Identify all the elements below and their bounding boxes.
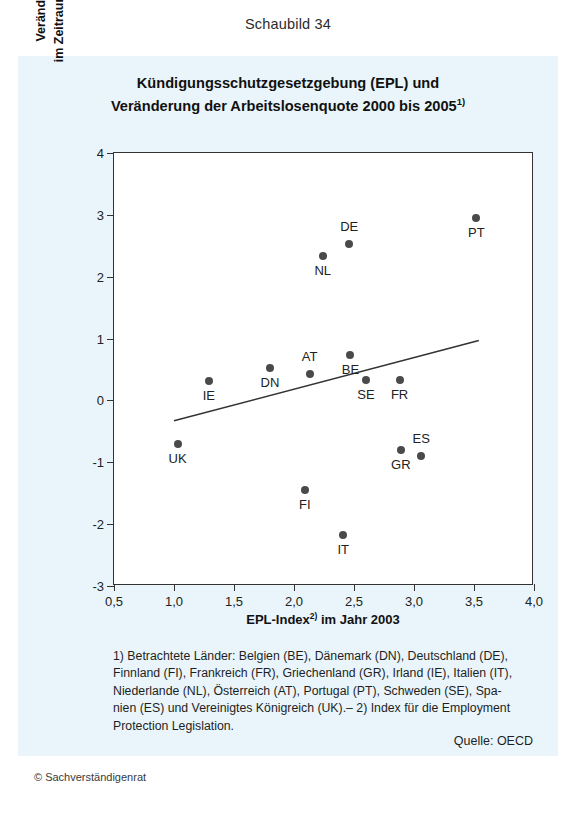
y-tick (107, 462, 114, 463)
data-point-label: IT (337, 542, 349, 557)
y-tick-label: -1 (92, 455, 104, 470)
data-point-label: UK (169, 451, 187, 466)
plot-area: -3-2-101234 0,51,01,52,02,53,03,54,0 UKI… (113, 152, 533, 585)
x-tick-label: 1,5 (225, 594, 243, 609)
y-tick-label: 3 (97, 207, 104, 222)
x-tick (534, 584, 535, 591)
footnote-line-4: nien (ES) und Vereinigtes Königreich (UK… (113, 700, 533, 717)
data-point-label: DE (340, 219, 358, 234)
chart-panel: Kündigungsschutzgesetzgebung (EPL) und V… (18, 56, 558, 756)
x-tick-label: 2,5 (345, 594, 363, 609)
x-tick (294, 584, 295, 591)
footnote-line-1: 1) Betrachtete Länder: Belgien (BE), Dän… (113, 648, 533, 665)
y-tick (107, 586, 114, 587)
x-axis-title: EPL-Index2) im Jahr 2003 (113, 612, 533, 627)
y-tick (107, 524, 114, 525)
x-axis-title-text: EPL-Index (246, 612, 310, 627)
x-tick (114, 584, 115, 591)
chart-title-line-2: Veränderung der Arbeitslosenquote 2000 b… (18, 95, 558, 118)
y-tick (107, 339, 114, 340)
y-tick (107, 400, 114, 401)
x-tick (174, 584, 175, 591)
data-point-label: DN (261, 375, 280, 390)
data-point-label: SE (357, 387, 374, 402)
data-point-label: PT (468, 225, 485, 240)
data-point-label: BE (342, 362, 359, 377)
data-point-label: IE (203, 388, 215, 403)
x-axis-title-suffix: im Jahr 2003 (317, 612, 399, 627)
figure-number: Schaubild 34 (0, 16, 576, 32)
trendline (114, 153, 534, 586)
copyright-note: © Sachverständigenrat (34, 771, 146, 783)
y-tick (107, 153, 114, 154)
x-tick-label: 2,0 (285, 594, 303, 609)
source-note: Quelle: OECD (113, 734, 533, 748)
data-point-label: FI (299, 497, 311, 512)
data-point-label: AT (302, 349, 318, 364)
chart-title-footnote-marker: 1) (457, 96, 465, 107)
data-point (396, 376, 404, 384)
data-point (362, 376, 370, 384)
x-tick (474, 584, 475, 591)
data-point (397, 446, 405, 454)
data-point (319, 252, 327, 260)
chart-title-line-2-text: Veränderung der Arbeitslosenquote 2000 b… (111, 98, 457, 114)
y-axis-title-line-1: Veränderung der Arbeitslosenquote (32, 0, 50, 152)
y-axis-title-line-2: im Zeitraum 2000 bis 2005 (Prozentpunkte… (50, 0, 68, 152)
x-tick (234, 584, 235, 591)
x-tick-label: 3,0 (405, 594, 423, 609)
data-point-label: GR (391, 457, 411, 472)
data-point-label: ES (413, 431, 430, 446)
footnote-line-2: Finnland (FI), Frankreich (FR), Griechen… (113, 665, 533, 682)
footnote-line-3: Niederlande (NL), Österreich (AT), Portu… (113, 683, 533, 700)
y-tick (107, 277, 114, 278)
footnote: 1) Betrachtete Länder: Belgien (BE), Dän… (113, 648, 533, 735)
y-tick-label: -3 (92, 579, 104, 594)
y-tick-label: 2 (97, 269, 104, 284)
y-tick-label: 1 (97, 331, 104, 346)
y-tick-label: -2 (92, 517, 104, 532)
x-tick-label: 4,0 (525, 594, 543, 609)
data-point-label: NL (314, 263, 331, 278)
y-tick-label: 4 (97, 146, 104, 161)
y-axis-title: Veränderung der Arbeitslosenquote im Zei… (46, 0, 68, 152)
x-tick-label: 0,5 (105, 594, 123, 609)
y-tick-label: 0 (97, 393, 104, 408)
y-axis-title-inner: Veränderung der Arbeitslosenquote im Zei… (32, 0, 68, 152)
x-tick-label: 3,5 (465, 594, 483, 609)
data-point-label: FR (391, 387, 408, 402)
x-tick (414, 584, 415, 591)
x-tick (354, 584, 355, 591)
chart-title: Kündigungsschutzgesetzgebung (EPL) und V… (18, 72, 558, 117)
chart-title-line-1: Kündigungsschutzgesetzgebung (EPL) und (18, 72, 558, 95)
y-tick (107, 215, 114, 216)
data-point (301, 486, 309, 494)
footnote-line-5: Protection Legislation. (113, 718, 533, 735)
x-tick-label: 1,0 (165, 594, 183, 609)
data-point (174, 440, 182, 448)
